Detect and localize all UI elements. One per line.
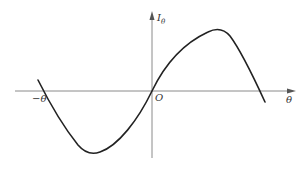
y-axis-arrow-icon: [150, 11, 155, 20]
x-axis-negative-label: −θ: [32, 93, 46, 104]
origin-label: O: [155, 92, 163, 103]
y-axis-label: Iθ: [156, 12, 166, 26]
diagram-canvas: Iθ −θ O θ: [0, 0, 303, 170]
y-axis-label-subscript: θ: [161, 18, 166, 26]
x-axis-label: θ: [286, 94, 292, 105]
x-axis-arrow-icon: [287, 89, 296, 94]
